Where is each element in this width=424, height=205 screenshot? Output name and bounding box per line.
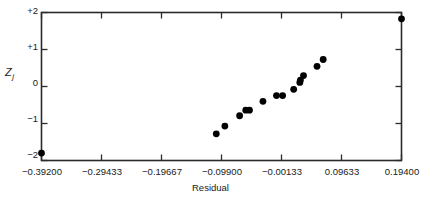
data-point [260,98,267,105]
axis-ticks [42,13,402,161]
data-point [320,56,327,63]
data-point [246,107,253,114]
data-point [279,92,286,99]
data-point [236,112,243,119]
data-point [273,92,280,99]
data-point [221,123,228,130]
data-point [38,150,45,157]
data-points [38,15,405,156]
data-point [290,86,297,93]
data-point [398,15,405,22]
data-point [314,63,321,70]
data-point [213,130,220,137]
plot-frame [42,13,402,161]
data-point [300,72,307,79]
